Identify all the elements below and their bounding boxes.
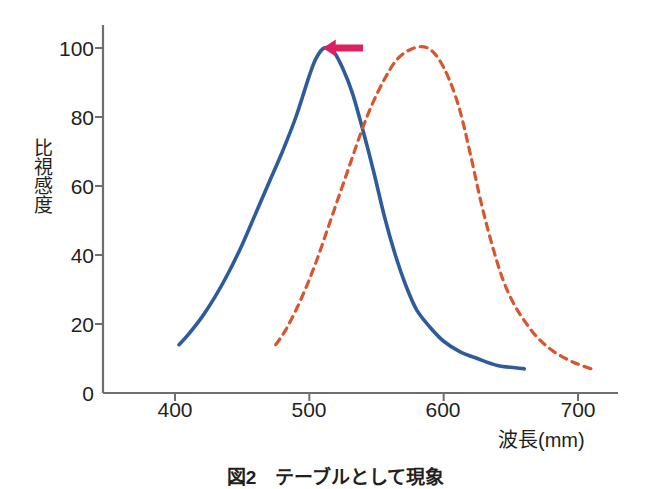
data-series-group bbox=[179, 47, 591, 369]
y-tick-label: 20 bbox=[48, 313, 94, 337]
x-tick-label: 500 bbox=[279, 398, 339, 422]
y-tick-label: 60 bbox=[48, 175, 94, 199]
tick-marks bbox=[95, 48, 578, 401]
figure-caption: 図2 テーブルとして現象 bbox=[0, 462, 671, 489]
x-tick-label: 700 bbox=[548, 398, 608, 422]
leftward-shift-arrow bbox=[323, 40, 363, 57]
x-tick-label: 400 bbox=[145, 398, 205, 422]
y-tick-label: 0 bbox=[48, 382, 94, 406]
y-axis-label: 比視感度 bbox=[22, 138, 52, 214]
series-line-1 bbox=[179, 48, 524, 369]
y-tick-label: 80 bbox=[48, 106, 94, 130]
axis-lines bbox=[103, 25, 618, 393]
annotation-group bbox=[323, 40, 363, 57]
y-tick-label: 100 bbox=[48, 37, 94, 61]
x-tick-label: 600 bbox=[413, 398, 473, 422]
y-tick-label: 40 bbox=[48, 244, 94, 268]
x-axis-label: 波長(mm) bbox=[498, 424, 585, 453]
series-line-2 bbox=[276, 47, 592, 369]
arrow-head bbox=[323, 40, 336, 57]
